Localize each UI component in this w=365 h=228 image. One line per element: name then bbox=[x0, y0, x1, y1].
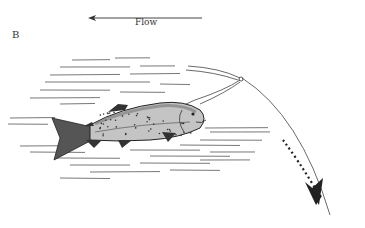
trout-spot bbox=[103, 113, 105, 115]
trout-spot bbox=[136, 115, 138, 117]
trout-spot bbox=[190, 132, 192, 134]
trout-spot bbox=[137, 113, 139, 115]
trout-spot bbox=[149, 117, 151, 119]
trout-spot bbox=[102, 133, 104, 135]
trout-spot bbox=[116, 126, 118, 128]
trout-spot bbox=[183, 132, 185, 134]
trout-illustration bbox=[52, 102, 206, 160]
flow-arrow-icon bbox=[88, 15, 202, 21]
water-streak bbox=[130, 73, 180, 74]
trout-spot bbox=[188, 132, 190, 134]
trout-spot bbox=[125, 133, 127, 135]
trout-spot bbox=[110, 119, 112, 121]
trout-spot bbox=[183, 123, 185, 125]
trout-spot bbox=[103, 123, 105, 125]
trout-spot bbox=[147, 116, 149, 118]
trout-spot bbox=[115, 120, 117, 122]
trout-spot bbox=[167, 129, 169, 131]
water-streak bbox=[60, 103, 95, 104]
trout-spot bbox=[175, 134, 177, 136]
trout-spot bbox=[169, 130, 171, 132]
trout-spot bbox=[100, 114, 102, 116]
trout-spot bbox=[153, 123, 155, 125]
trout-spot bbox=[107, 113, 109, 115]
trout-spot bbox=[180, 135, 182, 137]
trout-spot bbox=[150, 128, 152, 130]
trout-spot bbox=[169, 129, 171, 131]
trout-spot bbox=[105, 119, 107, 121]
drift-arrow-icon bbox=[283, 140, 323, 205]
water-streak bbox=[50, 74, 120, 75]
trout-spot bbox=[181, 123, 183, 125]
trout-spot bbox=[162, 120, 164, 122]
trout-spot bbox=[101, 123, 103, 125]
trout-spot bbox=[99, 128, 101, 130]
trout-spot bbox=[122, 115, 124, 117]
trout-spot bbox=[134, 124, 136, 126]
trout-spot bbox=[109, 112, 111, 114]
trout-spot bbox=[148, 130, 150, 132]
water-streak bbox=[160, 84, 190, 85]
trout-spot bbox=[146, 121, 148, 123]
trout-spot bbox=[107, 126, 109, 128]
trout-spot bbox=[135, 127, 137, 129]
illustration bbox=[0, 0, 365, 228]
trout-spot bbox=[149, 119, 151, 121]
trout-spot bbox=[113, 112, 115, 114]
water-streak bbox=[60, 178, 110, 179]
trout-spot bbox=[159, 133, 161, 135]
trout-spot bbox=[128, 113, 130, 115]
trout-spot bbox=[102, 135, 104, 137]
